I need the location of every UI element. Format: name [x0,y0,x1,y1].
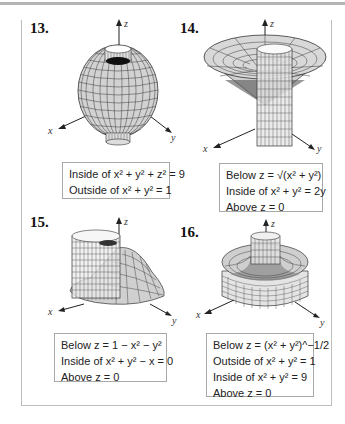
problem-16-caption: Below z = (x² + y²)^−1/2 Outside of x² +… [206,333,314,397]
y-axis-label: y [170,132,176,143]
y-axis-label: y [316,143,322,154]
z-axis-label: z [269,18,274,29]
z-axis-label: z [123,216,128,227]
problem-14-caption: Below z = √(x² + y²) Inside of x² + y² =… [219,163,323,212]
problem-15-caption: Below z = 1 − x² − y² Inside of x² + y² … [54,333,167,382]
figure-16-annular-region: z x y [190,216,335,328]
caption-line: Above z = 0 [213,385,307,401]
caption-line: Outside of x² + y² = 1 [213,353,307,369]
x-axis-label: x [202,143,208,154]
figure-15-paraboloid-cylinder: z x y [40,214,180,326]
z-axis-label: z [270,218,275,229]
z-axis-label: z [123,18,128,29]
caption-line: Inside of x² + y² − x = 0 [61,353,160,369]
y-axis-label: y [171,315,177,326]
caption-line: Inside of x² + y² + z² = 9 [69,166,163,182]
figure-14-cone-cylinder: z x y [195,16,335,156]
x-axis-label: x [47,306,53,317]
caption-line: Inside of x² + y² = 2y [226,183,316,199]
problem-13-caption: Inside of x² + y² + z² = 9 Outside of x²… [62,162,170,199]
x-axis-label: x [195,309,201,320]
caption-line: Below z = 1 − x² − y² [61,337,160,353]
caption-line: Below z = (x² + y²)^−1/2 [213,337,307,353]
caption-line: Outside of x² + y² = 1 [69,182,163,198]
y-axis-label: y [319,317,325,328]
caption-line: Above z = 0 [226,199,316,215]
caption-line: Above z = 0 [61,369,160,385]
top-rule [0,2,345,5]
caption-line: Inside of x² + y² = 9 [213,369,307,385]
x-axis-label: x [47,125,53,136]
figure-13-sphere-with-hole: z x y [40,16,180,151]
caption-line: Below z = √(x² + y²) [226,167,316,183]
